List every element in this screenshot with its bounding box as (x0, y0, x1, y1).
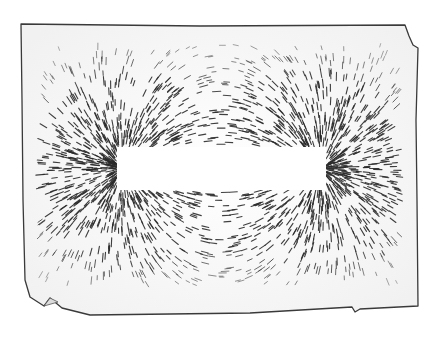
illustration (0, 0, 437, 339)
bar-magnet (117, 147, 326, 190)
drawing-canvas (0, 0, 437, 339)
